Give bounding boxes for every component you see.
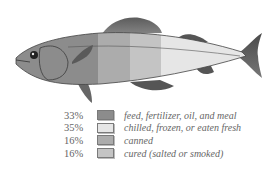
legend-label: canned (124, 135, 153, 146)
legend-label: cured (salted or smoked) (124, 148, 223, 159)
legend-swatch (97, 148, 114, 158)
fish-illustration (0, 0, 274, 105)
legend-swatch (97, 135, 114, 145)
legend-percent: 33% (64, 110, 94, 121)
anal-fin (130, 80, 174, 90)
pelvic-fin (78, 84, 92, 103)
legend-percent: 16% (64, 135, 94, 146)
legend-swatch (97, 110, 114, 120)
legend-row-fresh: 35% chilled, frozen, or eaten fresh (64, 122, 274, 135)
legend-percent: 35% (64, 122, 94, 133)
legend-label: feed, fertilizer, oil, and meal (124, 110, 237, 121)
legend-row-feed: 33% feed, fertilizer, oil, and meal (64, 109, 274, 122)
dorsal-fin (102, 18, 162, 34)
eye (30, 51, 38, 59)
legend: 33% feed, fertilizer, oil, and meal 35% … (64, 109, 274, 159)
legend-label: chilled, frozen, or eaten fresh (124, 122, 241, 133)
legend-swatch (97, 123, 114, 133)
legend-row-canned: 16% canned (64, 134, 274, 147)
legend-row-cured: 16% cured (salted or smoked) (64, 147, 274, 160)
legend-percent: 16% (64, 148, 94, 159)
